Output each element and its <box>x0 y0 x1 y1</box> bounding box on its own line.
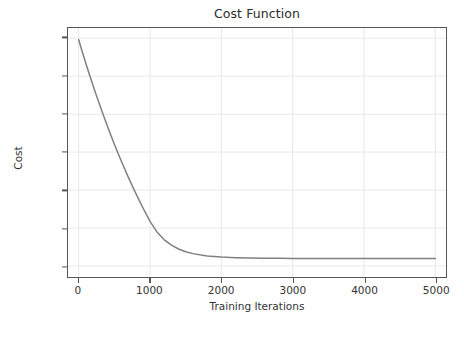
x-tick-label: 2000 <box>191 284 251 296</box>
x-tick-label: 4000 <box>335 284 395 296</box>
x-tick-label: 0 <box>48 284 108 296</box>
y-axis-label: Cost <box>12 128 24 188</box>
cost-curve <box>68 28 446 277</box>
x-tick-label: 5000 <box>406 284 464 296</box>
x-tick-mark <box>365 278 366 283</box>
plot-area <box>67 27 447 278</box>
x-tick-label: 3000 <box>263 284 323 296</box>
x-tick-mark <box>221 278 222 283</box>
x-tick-mark <box>149 278 150 283</box>
chart-figure: Cost Function Cost Training Iterations 0… <box>0 0 464 338</box>
x-tick-mark <box>78 278 79 283</box>
x-tick-mark <box>436 278 437 283</box>
x-tick-label: 1000 <box>119 284 179 296</box>
x-tick-mark <box>293 278 294 283</box>
chart-title: Cost Function <box>67 6 447 21</box>
x-axis-label: Training Iterations <box>67 300 447 312</box>
